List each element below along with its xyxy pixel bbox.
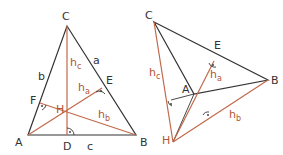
label-e: E	[106, 74, 113, 87]
label-h: H	[162, 134, 170, 147]
altitude-ha	[173, 61, 214, 142]
label-d: D	[63, 140, 71, 153]
label-hb: hb	[229, 108, 241, 123]
label-hc: hc	[70, 56, 81, 71]
label-hc: hc	[149, 66, 160, 81]
label-side-b: b	[38, 70, 45, 83]
label-a-vertex: A	[15, 136, 23, 149]
label-side-a: a	[93, 54, 100, 67]
label-side-c: c	[87, 140, 93, 153]
label-ha: ha	[78, 81, 90, 96]
triangle-abc-obtuse	[154, 22, 268, 94]
altitude-hb	[40, 103, 136, 135]
label-c-vertex: C	[145, 9, 153, 22]
label-a-vertex: A	[182, 83, 190, 96]
acute-triangle: C A B D E F H a b c hc ha hb	[15, 10, 148, 153]
triangle-diagram: C A B D E F H a b c hc ha hb C B A E H h…	[0, 0, 283, 155]
label-b-vertex: B	[140, 136, 148, 149]
label-c-vertex: C	[62, 10, 70, 23]
obtuse-triangle: C B A E H hc ha hb	[145, 9, 279, 147]
label-ha: ha	[210, 68, 222, 83]
label-e: E	[214, 39, 221, 52]
label-hb: hb	[98, 108, 110, 123]
label-h: H	[56, 103, 64, 116]
label-b-vertex: B	[271, 74, 279, 87]
label-f: F	[30, 94, 36, 107]
